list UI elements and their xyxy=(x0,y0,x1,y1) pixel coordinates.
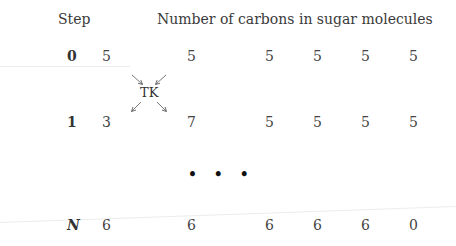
carbon-count: 5 xyxy=(361,114,370,130)
carbon-count: 5 xyxy=(265,114,274,130)
carbon-count: 0 xyxy=(409,217,418,233)
carbon-count: 5 xyxy=(313,114,322,130)
carbon-count: 6 xyxy=(313,217,322,233)
step-number: N xyxy=(67,217,80,233)
carbon-count: 6 xyxy=(265,217,274,233)
carbon-count: 6 xyxy=(187,217,196,233)
carbon-count: 7 xyxy=(187,114,196,130)
enzyme-label-tk: TK xyxy=(140,85,158,100)
ellipsis: • • • xyxy=(188,166,255,182)
carbon-count: 3 xyxy=(102,114,111,130)
carbon-count: 6 xyxy=(361,217,370,233)
carbon-count: 6 xyxy=(102,217,111,233)
carbon-count: 5 xyxy=(409,114,418,130)
step-number: 1 xyxy=(67,114,77,130)
